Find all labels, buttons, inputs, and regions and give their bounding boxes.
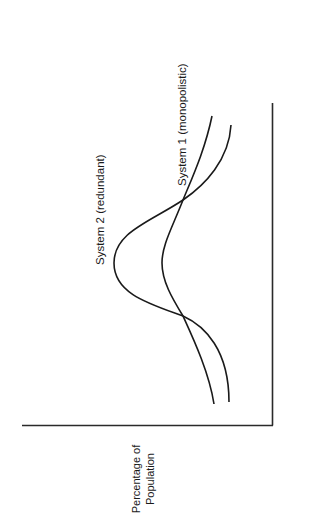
y-axis-label: Percentage of Population bbox=[129, 439, 157, 519]
series-label-system1: System 1 (monopolistic) bbox=[176, 63, 189, 186]
series-system2-redundant-curve bbox=[114, 125, 231, 402]
y-axis-label-line2: Population bbox=[143, 439, 157, 519]
y-axis-label-line1: Percentage of bbox=[129, 439, 143, 519]
series-label-system2: System 2 (redundant) bbox=[94, 154, 107, 265]
